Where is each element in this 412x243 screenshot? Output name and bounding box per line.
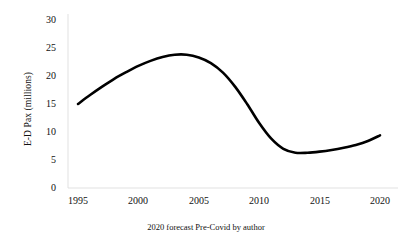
y-tick-label-15: 15 (22, 99, 56, 109)
x-tick-label-2015: 2015 (298, 196, 342, 206)
y-tick-label-10: 10 (22, 127, 56, 137)
chart-plot-area (0, 0, 412, 243)
chart-container: E-D Pax (millions) 30 25 20 15 10 5 0 19… (0, 0, 412, 243)
x-tick-label-2000: 2000 (116, 196, 160, 206)
data-series-line (78, 54, 380, 153)
y-tick-label-20: 20 (22, 71, 56, 81)
y-axis-label: E-D Pax (millions) (23, 29, 33, 189)
x-tick-label-2020: 2020 (358, 196, 402, 206)
x-tick-label-2010: 2010 (237, 196, 281, 206)
chart-caption: 2020 forecast Pre-Covid by author (0, 222, 412, 232)
x-tick-label-1995: 1995 (56, 196, 100, 206)
y-tick-label-25: 25 (22, 43, 56, 53)
y-tick-label-5: 5 (22, 155, 56, 165)
y-tick-label-30: 30 (22, 15, 56, 25)
y-tick-label-0: 0 (22, 183, 56, 193)
x-tick-label-2005: 2005 (177, 196, 221, 206)
